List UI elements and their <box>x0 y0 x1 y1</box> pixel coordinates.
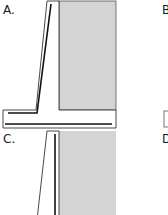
retaining-wall-diagram <box>0 0 168 215</box>
footing-edge-b <box>164 111 168 127</box>
backfill-soil-c <box>59 131 116 215</box>
panel-b <box>164 111 168 127</box>
panel-c <box>37 131 116 215</box>
backfill-soil-a <box>59 1 116 110</box>
panel-a <box>3 1 116 128</box>
